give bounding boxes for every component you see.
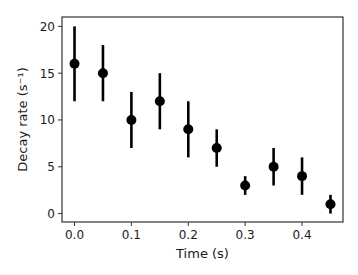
marker-circle — [212, 143, 222, 153]
marker-circle — [70, 59, 80, 69]
x-tick-label: 0.4 — [292, 228, 311, 242]
x-axis-label: Time (s) — [175, 246, 229, 261]
y-tick-label: 0 — [47, 207, 55, 221]
y-axis: 05101520 — [40, 20, 62, 221]
x-tick-label: 0.1 — [122, 228, 141, 242]
marker-circle — [269, 162, 279, 172]
y-tick-label: 5 — [47, 160, 55, 174]
x-tick-label: 0.3 — [236, 228, 255, 242]
x-tick-label: 0.2 — [179, 228, 198, 242]
chart-figure: 0.00.10.20.30.4 05101520 Time (s) Decay … — [0, 0, 358, 275]
marker-circle — [183, 124, 193, 134]
y-tick-label: 20 — [40, 20, 55, 34]
y-tick-label: 10 — [40, 113, 55, 127]
marker-circle — [325, 199, 335, 209]
x-tick-label: 0.0 — [65, 228, 84, 242]
marker-circle — [126, 115, 136, 125]
marker-circle — [155, 96, 165, 106]
y-axis-label: Decay rate (s⁻¹) — [15, 67, 30, 171]
marker-circle — [240, 180, 250, 190]
x-axis: 0.00.10.20.30.4 — [65, 222, 312, 242]
marker-circle — [297, 171, 307, 181]
marker-circle — [98, 68, 108, 78]
y-tick-label: 15 — [40, 67, 55, 81]
